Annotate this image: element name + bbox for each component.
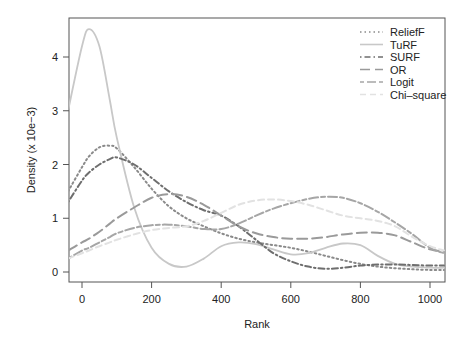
- legend-label: TuRF: [390, 39, 417, 51]
- x-tick-label: 400: [212, 293, 230, 305]
- y-axis: 01234: [52, 51, 69, 278]
- legend-label: ReliefF: [390, 26, 425, 38]
- x-axis-title: Rank: [244, 318, 270, 330]
- legend-label: SURF: [390, 51, 420, 63]
- x-tick-label: 1000: [418, 293, 442, 305]
- series-line-logit: [68, 197, 444, 259]
- y-tick-label: 4: [52, 51, 58, 63]
- x-tick-label: 200: [142, 293, 160, 305]
- series-line-relieff: [68, 146, 444, 270]
- density-chart: 02004006008001000 01234 Rank Density (x …: [0, 0, 465, 342]
- y-axis-title: Density (x 10e−3): [25, 107, 37, 194]
- y-tick-label: 2: [52, 159, 58, 171]
- series-line-chi-square: [68, 199, 444, 258]
- x-tick-label: 600: [282, 293, 300, 305]
- legend-label: OR: [390, 64, 407, 76]
- x-tick-label: 0: [79, 293, 85, 305]
- series-line-turf: [68, 29, 444, 268]
- series-layer: [68, 29, 444, 270]
- legend: ReliefFTuRFSURFORLogitChi–square: [360, 26, 446, 101]
- x-axis: 02004006008001000: [79, 282, 442, 305]
- y-tick-label: 1: [52, 212, 58, 224]
- y-tick-label: 0: [52, 266, 58, 278]
- legend-label: Logit: [390, 76, 414, 88]
- legend-label: Chi–square: [390, 89, 446, 101]
- y-tick-label: 3: [52, 105, 58, 117]
- x-tick-label: 800: [351, 293, 369, 305]
